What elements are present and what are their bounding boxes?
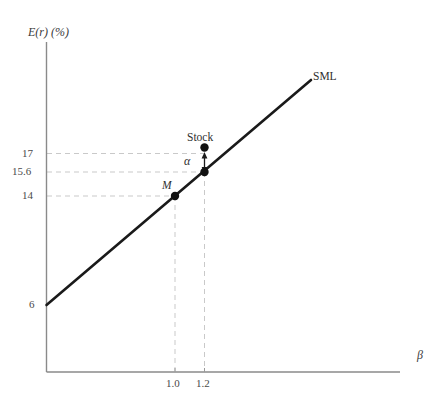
x-axis-title: β xyxy=(417,349,423,361)
sml-chart-figure: E(r) (%) β 17 15.6 14 6 1.0 1.2 SML Stoc… xyxy=(0,0,445,406)
point-stock xyxy=(200,143,208,151)
sml-series-label: SML xyxy=(313,71,337,83)
axis-lines xyxy=(47,42,401,372)
y-axis-title: E(r) (%) xyxy=(28,26,69,38)
point-sml-fair-return xyxy=(200,168,208,176)
chart-plot-area xyxy=(0,0,445,406)
point-market-M xyxy=(171,192,179,200)
y-tick-label-6: 6 xyxy=(29,299,35,310)
alpha-annotation-label: α xyxy=(184,155,190,167)
grid-lines xyxy=(47,154,205,372)
y-tick-label-15-6: 15.6 xyxy=(12,166,31,177)
stock-point-label: Stock xyxy=(187,132,213,144)
x-tick-label-1-2: 1.2 xyxy=(196,378,210,389)
y-tick-label-17: 17 xyxy=(22,148,33,159)
y-tick-label-14: 14 xyxy=(22,190,33,201)
x-tick-label-1-0: 1.0 xyxy=(166,378,180,389)
market-point-label: M xyxy=(162,180,172,192)
sml-line xyxy=(47,80,312,305)
